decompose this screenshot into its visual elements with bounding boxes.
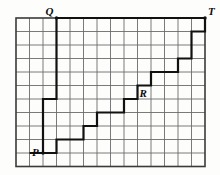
- grid-lines: [16, 18, 205, 167]
- vertex-dot-q: [55, 16, 58, 19]
- vertex-label-t: T: [208, 6, 215, 17]
- vertex-label-p: P: [32, 147, 39, 158]
- vertex-dot-t: [203, 16, 206, 19]
- vertex-dot-p: [41, 151, 44, 154]
- vertex-label-r: R: [140, 88, 147, 99]
- lattice-path-figure: P Q R T: [0, 0, 220, 175]
- vertex-label-q: Q: [46, 6, 54, 17]
